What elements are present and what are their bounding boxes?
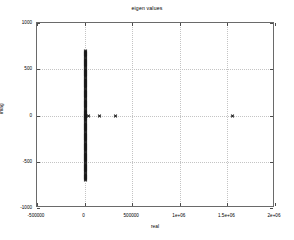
- y-axis-tick-label: -500: [0, 158, 32, 163]
- x-axis-tick: [37, 203, 38, 206]
- x-axis-tick: [85, 23, 86, 26]
- y-axis-tick-label: 0: [0, 112, 32, 117]
- y-axis-tick: [270, 23, 273, 24]
- gridline-vertical: [85, 23, 86, 206]
- y-axis-tick: [37, 116, 40, 117]
- y-axis-tick: [270, 116, 273, 117]
- x-axis-tick-label: 500000: [124, 213, 139, 218]
- x-axis-tick-label: 1.5e+06: [218, 213, 235, 218]
- x-axis-tick: [37, 23, 38, 26]
- figure-canvas: eigen values real imag -1000-50005001000…: [0, 0, 294, 240]
- gridline-vertical: [227, 23, 228, 206]
- gridline-horizontal: [37, 162, 273, 163]
- gridline-horizontal: [37, 69, 273, 70]
- gridline-vertical: [180, 23, 181, 206]
- y-axis-tick: [270, 208, 273, 209]
- x-axis-tick: [227, 203, 228, 206]
- x-axis-tick: [227, 23, 228, 26]
- x-axis-tick: [180, 23, 181, 26]
- y-axis-tick: [270, 162, 273, 163]
- x-axis-label: real: [36, 224, 274, 229]
- gridline-horizontal: [37, 116, 273, 117]
- x-axis-tick: [132, 203, 133, 206]
- plot-area: [37, 23, 273, 206]
- x-axis-tick: [275, 203, 276, 206]
- x-axis-tick: [275, 23, 276, 26]
- x-axis-tick-label: 2e+06: [268, 213, 281, 218]
- y-axis-tick: [37, 208, 40, 209]
- x-axis-tick-label: 0: [82, 213, 85, 218]
- y-axis-tick: [37, 69, 40, 70]
- x-axis-tick-label: 1e+06: [172, 213, 185, 218]
- gridline-vertical: [132, 23, 133, 206]
- y-axis-tick-label: -1000: [0, 205, 32, 210]
- x-axis-tick-label: -500000: [28, 213, 45, 218]
- x-axis-tick: [132, 23, 133, 26]
- y-axis-tick: [270, 69, 273, 70]
- y-axis-tick-label: 500: [0, 66, 32, 71]
- x-axis-tick: [85, 203, 86, 206]
- axes-frame: [36, 22, 274, 207]
- x-axis-tick: [180, 203, 181, 206]
- page-title: eigen values: [0, 5, 294, 11]
- y-axis-tick: [37, 162, 40, 163]
- y-axis-tick-label: 1000: [0, 20, 32, 25]
